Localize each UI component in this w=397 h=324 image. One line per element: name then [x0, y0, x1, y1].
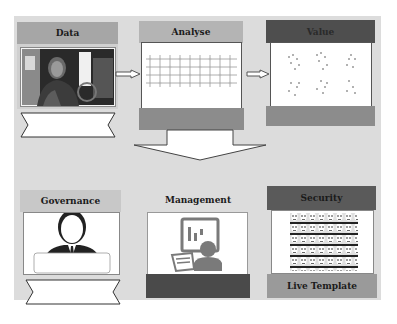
- data-image-box: [20, 47, 116, 107]
- analyse-image-box: [141, 42, 242, 109]
- security-footer-bar: Live Template: [267, 274, 377, 298]
- analyse-footer-bar: [139, 108, 244, 130]
- data-header: Data: [17, 22, 118, 44]
- data-ribbon-banner: [20, 112, 116, 138]
- security-image-box: [271, 210, 374, 274]
- value-header: Value: [266, 20, 375, 43]
- management-image-box: [147, 212, 248, 275]
- arrow-right-icon: [246, 69, 270, 79]
- face-template-mosaic-image: [272, 211, 373, 273]
- management-title: Management: [165, 195, 231, 205]
- presentation-user-icon: [148, 213, 247, 274]
- scatter-clusters-image: [271, 43, 371, 106]
- value-image-box: [270, 42, 372, 107]
- analyse-header: Analyse: [139, 21, 243, 43]
- governance-image-box: [23, 212, 120, 275]
- security-title: Security: [301, 193, 343, 203]
- data-title: Data: [56, 28, 80, 38]
- management-header: Management: [146, 190, 250, 210]
- security-header: Security: [267, 186, 376, 210]
- value-footer-bar: [266, 106, 375, 126]
- security-footer-label: Live Template: [287, 281, 357, 291]
- management-footer-bar: [146, 274, 250, 298]
- governance-title: Governance: [41, 196, 101, 206]
- value-title: Value: [307, 27, 335, 37]
- governance-header: Governance: [20, 190, 121, 212]
- arrow-right-icon: [115, 69, 141, 79]
- grid-network-image: [142, 43, 241, 108]
- governance-ribbon-banner: [25, 279, 121, 305]
- person-photo-image: [21, 48, 115, 106]
- analyse-title: Analyse: [172, 27, 211, 37]
- arrow-down-icon: [133, 129, 267, 161]
- businessman-icon: [24, 213, 119, 274]
